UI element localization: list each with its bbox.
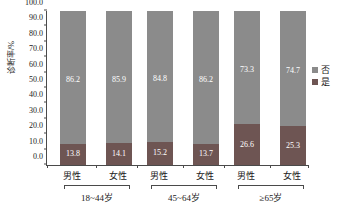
legend-label: 是	[321, 78, 330, 87]
group-bracket	[151, 185, 217, 189]
bar-column[interactable]: 13.786.2	[193, 11, 219, 165]
x-axis-group-brackets: 18~44岁45~64岁≥65岁	[46, 185, 308, 212]
bar-column[interactable]: 13.886.2	[60, 11, 86, 165]
x-axis-tick-mark	[47, 165, 48, 168]
x-axis-category-label: 女性	[109, 169, 127, 182]
chart-figure: 诊断率/% 0.010.020.030.040.050.060.070.080.…	[0, 0, 344, 212]
x-axis-labels: 男性女性男性女性男性女性	[46, 169, 308, 183]
y-axis-tick-label: 80.0	[29, 30, 47, 38]
group-label: ≥65岁	[238, 191, 304, 204]
bar-column[interactable]: 14.185.9	[106, 11, 132, 165]
bar-value-label-no: 73.3	[234, 66, 260, 74]
x-axis-category-label: 男性	[150, 169, 168, 182]
bar-value-label-yes: 26.6	[234, 141, 260, 149]
y-axis-tick-label: 50.0	[29, 76, 47, 84]
x-axis-tick-mark	[137, 165, 138, 168]
x-axis-tick-mark	[308, 165, 309, 168]
bar-value-label-no: 86.2	[193, 76, 219, 84]
bar-value-label-yes: 15.2	[147, 149, 173, 157]
bar-value-label-no: 74.7	[280, 67, 306, 75]
bar-series-container: 13.886.214.185.915.284.813.786.226.673.3…	[47, 11, 308, 165]
legend-item[interactable]: 否	[312, 64, 344, 76]
bar-column[interactable]: 26.673.3	[234, 11, 260, 165]
legend-swatch-icon	[312, 79, 318, 85]
y-axis-tick-label: 20.0	[29, 122, 47, 130]
legend-item[interactable]: 是	[312, 76, 344, 88]
x-axis-tick-mark	[270, 165, 271, 168]
y-axis-tick-label: 90.0	[29, 14, 47, 22]
bar-value-label-no: 84.8	[147, 75, 173, 83]
bar-value-label-no: 85.9	[106, 76, 132, 84]
y-axis-tick-label: 30.0	[29, 107, 47, 115]
x-axis-category-label: 女性	[196, 169, 214, 182]
legend-label: 否	[321, 66, 330, 75]
bar-value-label-yes: 13.8	[60, 150, 86, 158]
group-label: 18~44岁	[64, 191, 130, 204]
legend-swatch-icon	[312, 67, 318, 73]
plot-area: 0.010.020.030.040.050.060.070.080.090.01…	[46, 11, 308, 166]
y-axis-title: 诊断率/%	[5, 22, 16, 94]
y-axis-tick-label: 10.0	[29, 138, 47, 146]
x-axis-category-label: 男性	[237, 169, 255, 182]
bar-value-label-yes: 14.1	[106, 150, 132, 158]
bar-column[interactable]: 15.284.8	[147, 11, 173, 165]
y-axis-tick-label: 70.0	[29, 45, 47, 53]
x-axis-tick-mark	[224, 165, 225, 168]
y-axis-tick-label: 100.0	[25, 0, 47, 7]
x-axis-category-label: 男性	[63, 169, 81, 182]
bar-value-label-yes: 13.7	[193, 150, 219, 158]
group-bracket	[238, 185, 304, 189]
bar-value-label-yes: 25.3	[280, 142, 306, 150]
x-axis-tick-mark	[96, 165, 97, 168]
group-bracket	[64, 185, 130, 189]
y-axis-tick-label: 60.0	[29, 61, 47, 69]
bar-value-label-no: 86.2	[60, 76, 86, 84]
x-axis-tick-mark	[183, 165, 184, 168]
bar-column[interactable]: 25.374.7	[280, 11, 306, 165]
group-label: 45~64岁	[151, 191, 217, 204]
chart-legend: 否是	[312, 64, 344, 88]
x-axis-category-label: 女性	[283, 169, 301, 182]
y-axis-tick-label: 0.0	[33, 153, 47, 161]
y-axis-tick-label: 40.0	[29, 91, 47, 99]
